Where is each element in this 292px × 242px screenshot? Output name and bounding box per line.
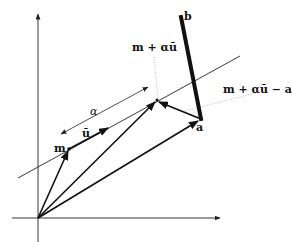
vector-a-to-projection [159,102,201,119]
label-projection: m + αū [132,41,177,54]
vector-origin-to-projection [38,102,155,218]
label-u: ū [82,127,90,140]
vectors [38,102,201,218]
segment-ab [181,17,201,119]
label-m: m [54,142,66,155]
vector-origin-to-m [38,151,68,218]
alpha-length-arrow [61,87,148,134]
line-through-m [18,56,240,178]
vector-origin-to-a [38,121,198,218]
label-a: a [196,121,203,134]
label-alpha: α [90,105,98,118]
point-m [67,147,71,151]
point-projection [156,99,159,102]
label-b: b [184,10,192,23]
label-residual: m + αū − a [223,83,292,96]
vector-projection-diagram: m ū α m + αū m + αū − a a b [0,0,292,242]
projection-leader [154,57,158,99]
